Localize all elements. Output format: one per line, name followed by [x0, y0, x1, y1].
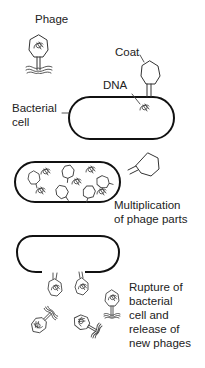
injected-dna-icon: [140, 104, 149, 111]
dna-leader-line: [132, 94, 140, 104]
attached-coat-icon: [140, 55, 160, 97]
empty-coat-icon: [128, 153, 159, 176]
phage-parts-icons: [28, 163, 115, 203]
phage-cycle-illustration: [0, 0, 205, 368]
released-phages-icons: [27, 272, 120, 339]
free-phage-icon: [26, 35, 52, 73]
bacterial-cell-outline: [69, 97, 174, 139]
ruptured-cell-outline: [17, 236, 119, 272]
